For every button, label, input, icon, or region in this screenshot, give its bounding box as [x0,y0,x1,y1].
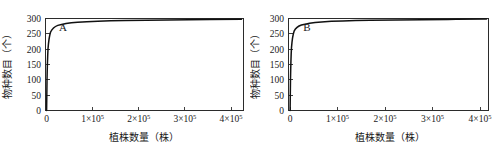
y-axis-title-a: 物种数目（个） [1,29,13,99]
y-ticklabel: 300 [270,14,285,24]
plot-frame-b [289,19,489,111]
x-ticklabel: 1×105 [81,113,104,125]
y-ticklabel: 200 [270,45,285,55]
y-ticklabel: 0 [36,106,41,116]
panel-letter-a: A [59,21,67,33]
x-ticklabel: 2×105 [374,113,397,125]
y-ticklabel: 200 [27,45,42,55]
x-ticklabel: 3×105 [421,113,444,125]
x-ticklabel: 1×105 [326,113,349,125]
x-ticklabel: 0 [288,114,293,124]
x-ticks-b [290,107,480,111]
y-ticklabel: 50 [275,91,285,101]
panel-letter-b: B [303,21,310,33]
y-ticklabel: 250 [270,29,285,39]
y-ticklabel: 50 [32,91,42,101]
species-curve-a [47,19,242,110]
species-curve-b [290,19,486,111]
x-axis-title-b: 植株数量（株） [355,131,425,143]
y-ticklabel: 100 [270,75,285,85]
y-axis-title-b: 物种数目（个） [250,29,261,99]
plot-frame-a [46,19,244,111]
y-ticklabel: 150 [270,60,285,70]
panel-b: B 300 250 200 150 100 50 0 0 1×105 2×105… [250,0,500,156]
y-ticklabel: 0 [279,106,284,116]
x-ticklabel: 3×105 [173,113,196,125]
x-ticklabel: 4×105 [469,113,492,125]
panel-b-plot: B 300 250 200 150 100 50 0 0 1×105 2×105… [250,0,500,156]
y-ticklabel: 100 [27,75,42,85]
x-axis-title-a: 植株数量（株） [109,131,179,143]
y-ticklabel: 250 [27,29,42,39]
x-ticklabel: 4×105 [220,113,243,125]
y-ticklabel: 150 [27,60,42,70]
panel-a: A 300 250 200 150 100 50 0 0 1×105 2×105… [0,0,250,156]
figure-container: A 300 250 200 150 100 50 0 0 1×105 2×105… [0,0,500,156]
y-ticklabel: 300 [27,14,42,24]
x-ticklabel: 0 [44,114,49,124]
panel-a-plot: A 300 250 200 150 100 50 0 0 1×105 2×105… [0,0,250,156]
x-ticklabel: 2×105 [127,113,150,125]
x-ticks-a [47,107,232,111]
